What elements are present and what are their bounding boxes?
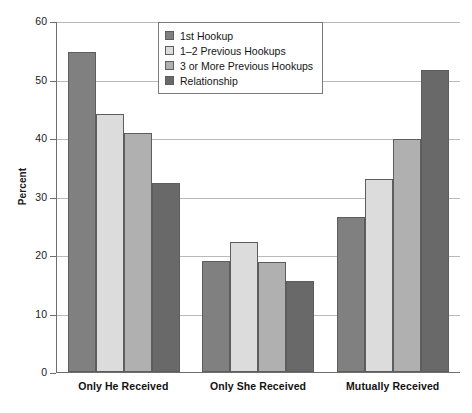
- bar[interactable]: [258, 262, 286, 372]
- legend-label: 1–2 Previous Hookups: [180, 45, 286, 57]
- bar-group: [326, 22, 460, 372]
- y-tick-label: 40: [35, 132, 47, 144]
- bar[interactable]: [152, 183, 180, 372]
- bar[interactable]: [393, 139, 421, 372]
- bar[interactable]: [96, 114, 124, 372]
- legend-item[interactable]: 1st Hookup: [165, 28, 313, 43]
- legend-label: 3 or More Previous Hookups: [180, 60, 313, 72]
- y-tick-label: 60: [35, 15, 47, 27]
- y-tick-label: 50: [35, 74, 47, 86]
- legend-swatch-icon: [165, 61, 174, 70]
- y-tick-label: 30: [35, 191, 47, 203]
- bar[interactable]: [286, 281, 314, 372]
- y-axis-ticks: 0102030405060: [0, 22, 56, 373]
- x-axis-label: Only She Received: [191, 380, 326, 392]
- legend-swatch-icon: [165, 46, 174, 55]
- legend-label: Relationship: [180, 75, 238, 87]
- legend-item[interactable]: 3 or More Previous Hookups: [165, 58, 313, 73]
- y-tick-label: 20: [35, 249, 47, 261]
- y-tick-mark: [50, 373, 56, 374]
- bar[interactable]: [230, 242, 258, 372]
- legend-swatch-icon: [165, 76, 174, 85]
- bar[interactable]: [421, 70, 449, 372]
- y-tick-label: 0: [41, 366, 47, 378]
- bar[interactable]: [202, 261, 230, 372]
- legend-item[interactable]: 1–2 Previous Hookups: [165, 43, 313, 58]
- bar[interactable]: [68, 52, 96, 372]
- gridline: [57, 373, 460, 374]
- bar[interactable]: [337, 217, 365, 372]
- legend-swatch-icon: [165, 31, 174, 40]
- x-axis-label: Mutually Received: [325, 380, 460, 392]
- x-axis-labels: Only He ReceivedOnly She ReceivedMutuall…: [56, 380, 460, 392]
- bar[interactable]: [365, 179, 393, 372]
- bar-chart: Percent 0102030405060 Only He ReceivedOn…: [0, 0, 472, 413]
- bar[interactable]: [124, 133, 152, 372]
- legend-label: 1st Hookup: [180, 30, 233, 42]
- legend: 1st Hookup1–2 Previous Hookups3 or More …: [158, 22, 323, 94]
- x-axis-label: Only He Received: [56, 380, 191, 392]
- legend-item[interactable]: Relationship: [165, 73, 313, 88]
- y-tick-label: 10: [35, 308, 47, 320]
